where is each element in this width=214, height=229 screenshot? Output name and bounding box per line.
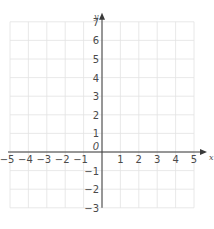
x-tick-label: 5 (191, 154, 197, 165)
y-tick-label: −3 (84, 203, 99, 214)
tick-labels: −5−4−3−2−112345−3−2−11234567 (0, 17, 197, 214)
axes (8, 13, 207, 208)
x-tick-label: −4 (18, 154, 33, 165)
y-tick-label: 4 (93, 73, 99, 84)
x-tick-label: 2 (136, 154, 142, 165)
y-axis-arrow-icon (99, 13, 105, 20)
x-axis-label: x (209, 153, 214, 162)
x-tick-label: 1 (117, 154, 123, 165)
x-tick-label: 3 (154, 154, 160, 165)
y-axis-label: y (93, 12, 99, 21)
x-tick-label: −2 (55, 154, 70, 165)
y-tick-label: −1 (84, 166, 99, 177)
coordinate-grid: −5−4−3−2−112345−3−2−11234567 x y 0 (0, 0, 214, 229)
y-tick-label: 1 (93, 128, 99, 139)
x-tick-label: −3 (36, 154, 51, 165)
y-tick-label: 3 (93, 91, 99, 102)
y-tick-label: 5 (93, 54, 99, 65)
origin-label: 0 (93, 141, 99, 152)
y-tick-label: −2 (84, 184, 99, 195)
x-tick-label: 4 (172, 154, 178, 165)
y-tick-label: 6 (93, 35, 99, 46)
x-axis-arrow-icon (200, 149, 207, 155)
y-tick-label: 2 (93, 110, 99, 121)
x-tick-label: −5 (0, 154, 14, 165)
x-tick-label: −1 (73, 154, 88, 165)
